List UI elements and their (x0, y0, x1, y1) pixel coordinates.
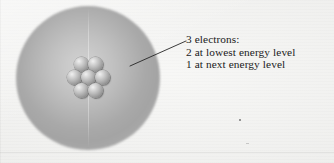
caption: 3 electrons: 2 at lowest energy level 1 … (186, 33, 332, 71)
nucleon-bottom-left (74, 83, 89, 98)
caption-line-lowest-level: 2 at lowest energy level (186, 46, 332, 59)
plate-edge-bottom (0, 152, 334, 153)
scan-speck-artifact (239, 119, 241, 121)
caption-line-electron-count: 3 electrons: (186, 33, 332, 46)
nucleon-bottom-right (88, 83, 103, 98)
plate-edge-left (0, 0, 1, 163)
scan-speck-artifact-secondary (246, 143, 249, 144)
nucleus (67, 57, 111, 99)
atom-diagram-figure: 3 electrons: 2 at lowest energy level 1 … (0, 0, 334, 163)
caption-line-next-level: 1 at next energy level (186, 58, 332, 71)
